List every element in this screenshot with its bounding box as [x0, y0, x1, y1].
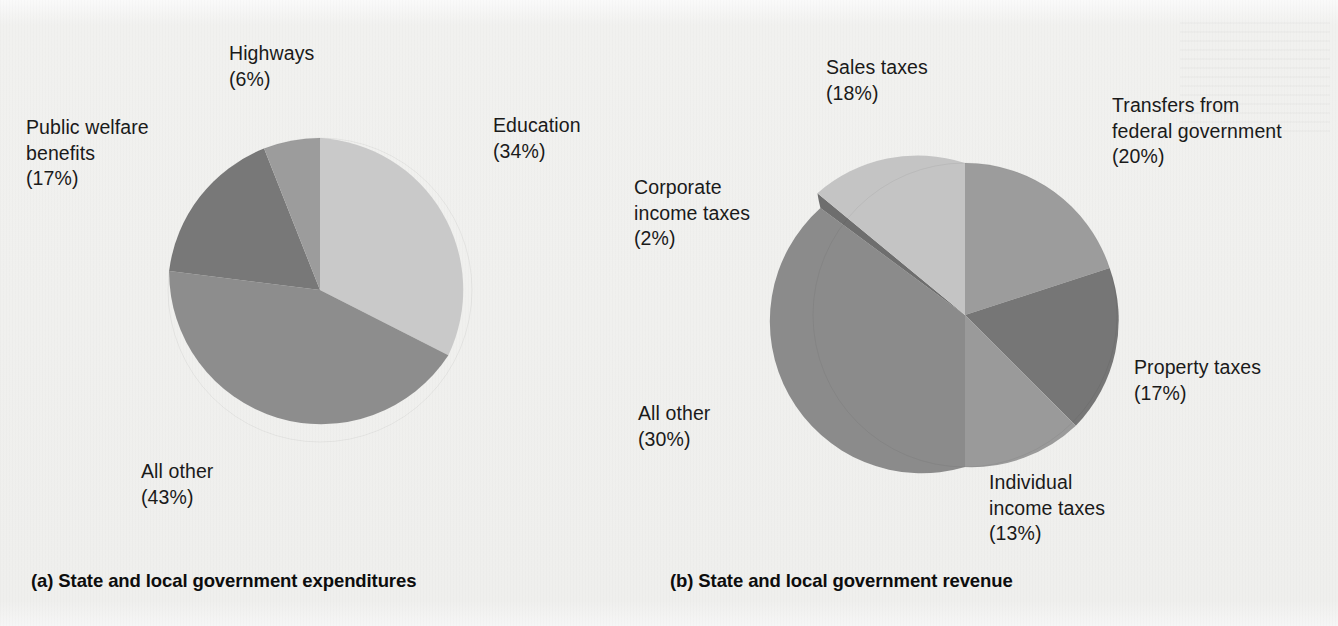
label-property-taxes-name: Property taxes: [1134, 355, 1261, 381]
label-corporate-line2: income taxes: [634, 201, 750, 227]
label-education: Education (34%): [493, 113, 581, 164]
label-individual-income-taxes: Individual income taxes (13%): [989, 470, 1105, 547]
label-all-other-revenue: All other (30%): [638, 401, 710, 452]
label-education-name: Education: [493, 113, 581, 139]
label-highways: Highways (6%): [229, 41, 314, 92]
label-all-other-name: All other: [141, 459, 213, 485]
label-corporate-income-taxes: Corporate income taxes (2%): [634, 175, 750, 252]
label-public-welfare-line2: benefits: [26, 141, 149, 167]
label-sales-taxes-name: Sales taxes: [826, 55, 928, 81]
label-highways-name: Highways: [229, 41, 314, 67]
caption-panel-b: (b) State and local government revenue: [670, 570, 1013, 592]
label-public-welfare-line1: Public welfare: [26, 115, 149, 141]
caption-panel-a: (a) State and local government expenditu…: [31, 570, 416, 592]
label-sales-taxes: Sales taxes (18%): [826, 55, 928, 106]
label-all-other-revenue-name: All other: [638, 401, 710, 427]
label-all-other-expenditures: All other (43%): [141, 459, 213, 510]
label-transfers-pct: (20%): [1112, 144, 1282, 170]
label-individual-line1: Individual: [989, 470, 1105, 496]
pie-chart-expenditures: [0, 0, 669, 626]
label-corporate-line1: Corporate: [634, 175, 750, 201]
figure-canvas: Highways (6%) Public welfare benefits (1…: [0, 0, 1338, 626]
label-all-other-revenue-pct: (30%): [638, 427, 710, 453]
label-all-other-pct: (43%): [141, 485, 213, 511]
label-property-taxes-pct: (17%): [1134, 381, 1261, 407]
label-public-welfare-pct: (17%): [26, 166, 149, 192]
label-public-welfare: Public welfare benefits (17%): [26, 115, 149, 192]
panel-revenue: Sales taxes (18%) Transfers from federal…: [669, 0, 1338, 626]
label-transfers-line2: federal government: [1112, 119, 1282, 145]
label-corporate-pct: (2%): [634, 226, 750, 252]
label-property-taxes: Property taxes (17%): [1134, 355, 1261, 406]
label-individual-pct: (13%): [989, 521, 1105, 547]
label-sales-taxes-pct: (18%): [826, 81, 928, 107]
label-individual-line2: income taxes: [989, 496, 1105, 522]
label-transfers-line1: Transfers from: [1112, 93, 1282, 119]
label-education-pct: (34%): [493, 139, 581, 165]
panel-expenditures: Highways (6%) Public welfare benefits (1…: [0, 0, 669, 626]
label-transfers: Transfers from federal government (20%): [1112, 93, 1282, 170]
label-highways-pct: (6%): [229, 67, 314, 93]
